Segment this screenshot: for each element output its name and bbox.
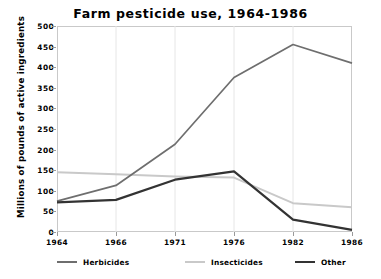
y-tick-mark (52, 67, 56, 68)
y-tick-label: 250 (8, 125, 54, 134)
y-tick-mark (52, 47, 56, 48)
y-tick-mark (52, 191, 56, 192)
x-tick-mark (234, 232, 235, 236)
y-tick-label: 400 (8, 63, 54, 72)
x-tick-mark (293, 232, 294, 236)
y-tick-label: 500 (8, 22, 54, 31)
x-tick-mark (352, 232, 353, 236)
legend-swatch-other (295, 261, 315, 263)
x-tick-mark (116, 232, 117, 236)
y-tick-label: 300 (8, 104, 54, 113)
x-tick-label: 1976 (223, 238, 245, 247)
chart-legend: HerbicidesInsecticidesOther (57, 255, 357, 269)
y-tick-mark (52, 170, 56, 171)
y-tick-mark (52, 108, 56, 109)
legend-swatch-insecticides (185, 261, 205, 263)
y-tick-label: 450 (8, 42, 54, 51)
legend-swatch-herbicides (57, 261, 77, 263)
x-tick-label: 1964 (46, 238, 68, 247)
y-tick-label: 350 (8, 83, 54, 92)
y-tick-label: 200 (8, 145, 54, 154)
chart-title: Farm pesticide use, 1964-1986 (0, 6, 381, 21)
series-line-other (57, 171, 352, 230)
x-tick-label: 1971 (164, 238, 186, 247)
y-tick-label: 0 (8, 228, 54, 237)
x-tick-label: 1982 (282, 238, 304, 247)
y-tick-mark (52, 211, 56, 212)
x-tick-mark (175, 232, 176, 236)
y-tick-label: 100 (8, 186, 54, 195)
y-tick-label: 150 (8, 166, 54, 175)
legend-label: Other (321, 258, 346, 267)
y-tick-mark (52, 232, 56, 233)
y-tick-label: 50 (8, 207, 54, 216)
x-tick-mark (57, 232, 58, 236)
y-tick-mark (52, 26, 56, 27)
y-tick-mark (52, 129, 56, 130)
legend-label: Herbicides (83, 258, 129, 267)
y-tick-mark (52, 150, 56, 151)
plot-lines (57, 26, 352, 232)
y-tick-mark (52, 88, 56, 89)
legend-item-other[interactable]: Other (295, 255, 346, 269)
chart-container: Farm pesticide use, 1964-1986 Millions o… (0, 0, 381, 279)
legend-item-herbicides[interactable]: Herbicides (57, 255, 129, 269)
x-tick-label: 1986 (341, 238, 363, 247)
legend-item-insecticides[interactable]: Insecticides (185, 255, 263, 269)
legend-label: Insecticides (211, 258, 263, 267)
x-tick-label: 1966 (105, 238, 127, 247)
